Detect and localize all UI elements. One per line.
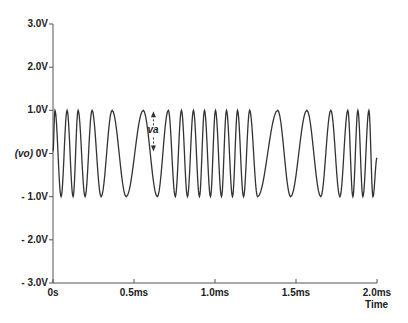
y-tick-label: 3.0V xyxy=(0,18,48,29)
waveform-vo xyxy=(53,110,377,196)
x-axis-title: Time xyxy=(365,299,388,310)
chart-plot-area xyxy=(0,0,408,323)
y-tick-label: (vo) 0V xyxy=(0,148,48,159)
y-axis-series-label: (vo) xyxy=(15,148,36,159)
x-tick-label: 1.0ms xyxy=(190,287,240,298)
y-tick-label: 1.0V xyxy=(0,104,48,115)
y-tick-label: - 2.0V xyxy=(0,234,48,245)
x-tick-label: 0s xyxy=(28,287,78,298)
x-tick-label: 1.5ms xyxy=(271,287,321,298)
x-tick-label: 0.5ms xyxy=(109,287,159,298)
x-tick-label: 2.0ms xyxy=(352,287,402,298)
y-tick-label: - 1.0V xyxy=(0,191,48,202)
va-annotation-label: va xyxy=(147,124,158,135)
y-tick-label: 2.0V xyxy=(0,61,48,72)
